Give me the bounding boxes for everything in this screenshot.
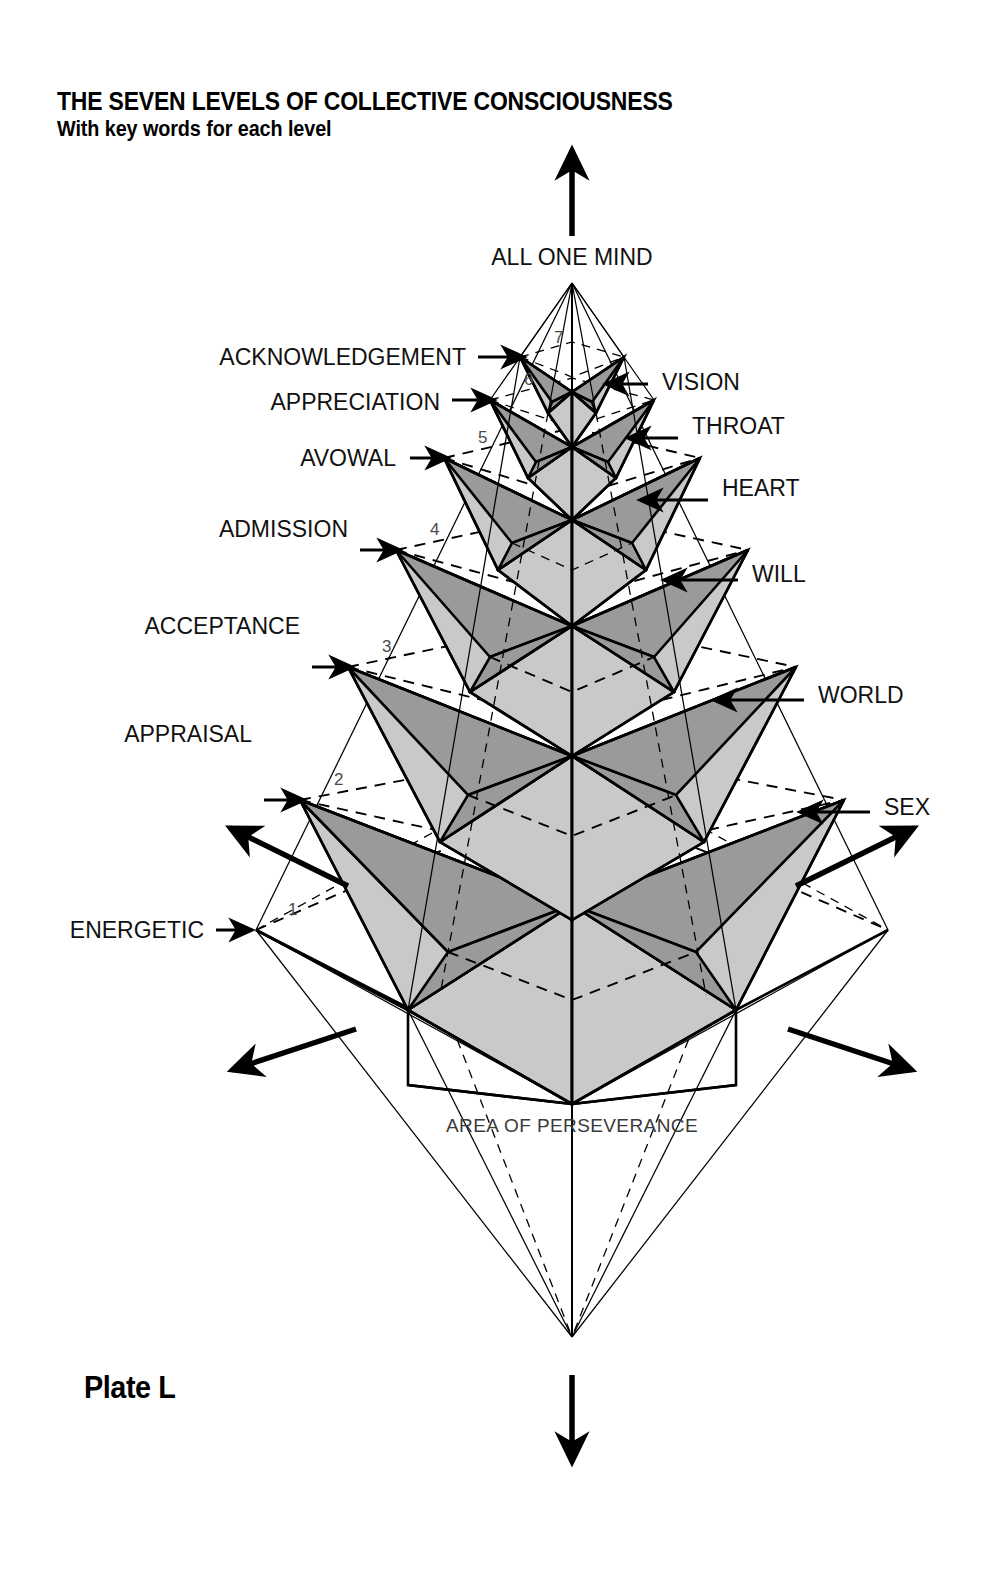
left-label-appreciation: APPRECIATION [270, 389, 440, 415]
level-number-7: 7 [554, 328, 563, 347]
level-number-4: 4 [430, 520, 439, 539]
level-number-5: 5 [478, 428, 487, 447]
right-label-sex: SEX [884, 794, 930, 820]
level-number-2: 2 [334, 770, 343, 789]
arrow-lower-right [788, 1029, 912, 1070]
left-label-avowal: AVOWAL [300, 445, 396, 471]
arrow-lower-left [232, 1029, 356, 1070]
apex-label: ALL ONE MIND [491, 244, 652, 270]
left-label-acknowledgement: ACKNOWLEDGEMENT [219, 344, 466, 370]
level-number-1: 1 [288, 900, 297, 919]
perseverance-note: AREA OF PERSEVERANCE [446, 1115, 698, 1136]
right-label-world: WORLD [818, 682, 904, 708]
left-label-energetic: ENERGETIC [70, 917, 204, 943]
left-label-admission: ADMISSION [219, 516, 348, 542]
level-number-3: 3 [382, 637, 391, 656]
right-label-vision: VISION [662, 369, 740, 395]
right-label-heart: HEART [722, 475, 800, 501]
left-label-appraisal: APPRAISAL [124, 721, 252, 747]
right-label-will: WILL [752, 561, 806, 587]
level-number-6: 6 [524, 370, 533, 389]
top-arrow-group: ALL ONE MIND [491, 150, 652, 270]
diagram-page: THE SEVEN LEVELS OF COLLECTIVE CONSCIOUS… [0, 0, 996, 1590]
left-label-acceptance: ACCEPTANCE [145, 613, 301, 639]
consciousness-diagram: ALL ONE MIND 1 2 3 4 5 6 7 ACKNOWLEDGEME… [0, 0, 996, 1590]
right-label-throat: THROAT [692, 413, 785, 439]
